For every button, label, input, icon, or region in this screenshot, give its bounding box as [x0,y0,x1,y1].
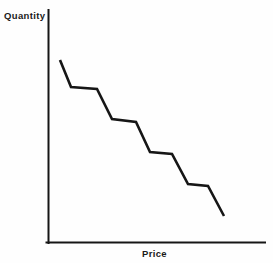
plot-canvas [0,0,273,263]
y-axis-label: Quantity [4,11,45,21]
chart-background [0,0,273,263]
x-axis-label: Price [0,249,273,259]
chart-figure: Quantity Price [0,0,273,263]
